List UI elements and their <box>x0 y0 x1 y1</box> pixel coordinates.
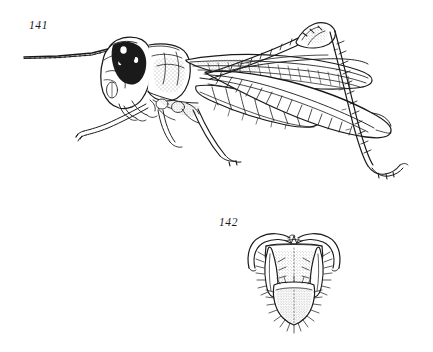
subgenital-plate <box>266 282 322 333</box>
figure-142-group <box>248 234 340 333</box>
figure-label-141: 141 <box>29 19 48 31</box>
illustration-plate: 141 142 <box>0 0 433 352</box>
furcula <box>286 235 302 244</box>
figure-142-artwork <box>0 0 433 352</box>
figure-label-142: 142 <box>219 216 238 228</box>
